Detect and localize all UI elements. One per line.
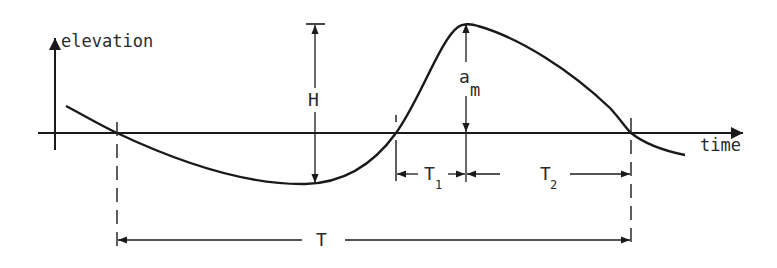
wave-profile-curve bbox=[66, 24, 685, 184]
fall-time-subscript: 2 bbox=[550, 178, 557, 192]
elevation-axis-label: elevation bbox=[61, 31, 153, 51]
crest-amplitude-subscript: m bbox=[470, 80, 480, 100]
period-label: T bbox=[316, 229, 327, 250]
wave-height-label: H bbox=[308, 89, 319, 110]
rise-time-label: T bbox=[424, 163, 435, 184]
time-axis-label: time bbox=[700, 135, 741, 155]
rise-time-subscript: 1 bbox=[435, 178, 442, 192]
wave-diagram: elevation time H a m T 1 T 2 T bbox=[0, 0, 777, 268]
crest-amplitude-label: a bbox=[459, 66, 470, 87]
